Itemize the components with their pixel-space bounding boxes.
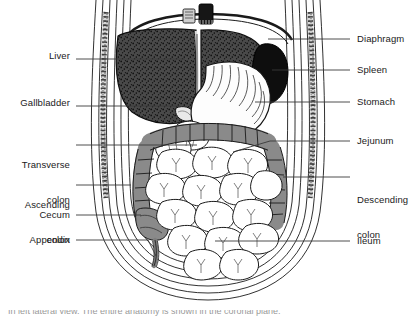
label-stomach: Stomach [357, 96, 395, 108]
label-ascending-colon: Ascending colon [0, 176, 70, 268]
label-diaphragm: Diaphragm [357, 33, 404, 45]
small-intestine-mass [146, 147, 282, 280]
label-jejunum: Jejunum [357, 135, 394, 147]
figure-caption: In left lateral view. The entire anatomy… [8, 310, 281, 316]
label-ileum: Ileum [357, 235, 381, 247]
label-liver: Liver [0, 50, 70, 62]
appendix-organ [152, 240, 159, 267]
label-descending-colon: Descending colon [357, 171, 408, 263]
label-gallbladder: Gallbladder [0, 97, 70, 109]
label-descending-colon-line1: Descending [357, 194, 408, 206]
label-cecum: Cecum [0, 209, 70, 221]
label-appendix: Appendix [0, 234, 70, 246]
label-spleen: Spleen [357, 64, 387, 76]
figure-caption-strip: In left lateral view. The entire anatomy… [0, 310, 420, 322]
anatomical-figure: Liver Gallbladder Transverse colon Ascen… [0, 0, 420, 322]
label-transverse-colon-line1: Transverse [0, 159, 70, 171]
